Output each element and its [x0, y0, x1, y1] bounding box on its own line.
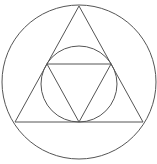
outer-circle: [2, 5, 156, 159]
geometry-diagram: [0, 0, 157, 164]
inner-triangle: [47, 64, 111, 122]
inner-circle: [41, 46, 117, 122]
